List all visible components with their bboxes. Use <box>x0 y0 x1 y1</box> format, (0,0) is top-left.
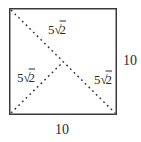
radicand: 2 <box>29 70 36 85</box>
label-diagonal-top: 5√2 <box>48 23 66 36</box>
coefficient: 5 <box>94 72 101 87</box>
label-half-diagonal-left: 5√2 <box>17 71 35 84</box>
geometry-diagram: 5√2 5√2 5√2 10 10 <box>0 0 141 142</box>
coefficient: 5 <box>48 22 55 37</box>
label-side-right: 10 <box>123 54 137 68</box>
label-side-bottom: 10 <box>55 123 69 137</box>
radicand: 2 <box>106 72 113 87</box>
coefficient: 5 <box>17 70 24 85</box>
label-diagonal-bottom-right: 5√2 <box>94 73 112 86</box>
radicand: 2 <box>60 22 67 37</box>
